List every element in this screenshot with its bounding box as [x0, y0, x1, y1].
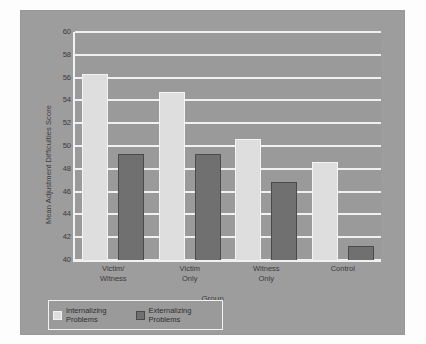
legend-entry-externalizing: Externalizing Problems [136, 306, 219, 325]
legend: Internalizing Problems Externalizing Pro… [48, 300, 223, 330]
y-tick: 60 [75, 31, 76, 32]
bar-internalizing [235, 139, 261, 260]
legend-label-internalizing-line2: Problems [66, 315, 98, 324]
x-tick-label: Control [305, 264, 382, 274]
bar-internalizing [82, 74, 108, 260]
x-tick-label-line2: Only [228, 274, 305, 284]
legend-swatch-externalizing-icon [136, 311, 145, 320]
y-tick-label: 42 [63, 232, 71, 241]
x-tick-label-line1: Victim/ [75, 264, 152, 274]
gridline [75, 77, 381, 79]
gridline [75, 99, 381, 101]
y-tick: 50 [75, 145, 76, 146]
x-tick-label-line2: Only [152, 274, 229, 284]
gridline [75, 145, 381, 147]
plot-area: 4042444648505254565860 Victim/WitnessVic… [73, 32, 381, 262]
x-tick-label: VictimOnly [152, 264, 229, 284]
x-tick-label-line1: Victim [152, 264, 229, 274]
x-tick-label: WitnessOnly [228, 264, 305, 284]
y-tick: 44 [75, 213, 76, 214]
bar-internalizing [159, 92, 185, 260]
bar-externalizing [195, 154, 221, 260]
x-tick-label-line1: Control [305, 264, 382, 274]
legend-label-externalizing-line1: Externalizing [149, 306, 192, 315]
legend-entry-internalizing: Internalizing Problems [53, 306, 136, 325]
x-tick-label-line1: Witness [228, 264, 305, 274]
bar-internalizing [312, 162, 338, 260]
y-tick: 54 [75, 99, 76, 100]
y-tick-label: 44 [63, 209, 71, 218]
bar-externalizing [271, 182, 297, 260]
legend-label-internalizing: Internalizing Problems [66, 306, 106, 325]
y-tick-label: 50 [63, 141, 71, 150]
y-tick: 42 [75, 236, 76, 237]
y-tick-label: 58 [63, 49, 71, 58]
x-tick-label-line2: Witness [75, 274, 152, 284]
bar-externalizing [118, 154, 144, 260]
y-tick-label: 54 [63, 95, 71, 104]
gridline [75, 122, 381, 124]
figure: Mean Adjustment Difficulties Score Group… [0, 0, 426, 344]
y-tick-label: 40 [63, 255, 71, 264]
y-tick-label: 46 [63, 186, 71, 195]
y-tick: 46 [75, 191, 76, 192]
legend-label-externalizing-line2: Problems [149, 315, 181, 324]
legend-label-internalizing-line1: Internalizing [66, 306, 106, 315]
y-tick-label: 48 [63, 163, 71, 172]
y-tick: 40 [75, 259, 76, 260]
y-tick: 56 [75, 77, 76, 78]
legend-label-externalizing: Externalizing Problems [149, 306, 192, 325]
x-tick-label: Victim/Witness [75, 264, 152, 284]
y-tick-label: 52 [63, 118, 71, 127]
y-tick-label: 60 [63, 27, 71, 36]
y-tick: 52 [75, 122, 76, 123]
legend-swatch-internalizing-icon [53, 311, 62, 320]
y-axis-label: Mean Adjustment Difficulties Score [44, 75, 53, 255]
bar-externalizing [348, 246, 374, 260]
y-tick-label: 56 [63, 72, 71, 81]
y-tick: 48 [75, 168, 76, 169]
gridline [75, 31, 381, 33]
chart-panel: Mean Adjustment Difficulties Score Group… [20, 10, 405, 335]
gridline [75, 54, 381, 56]
y-tick: 58 [75, 54, 76, 55]
